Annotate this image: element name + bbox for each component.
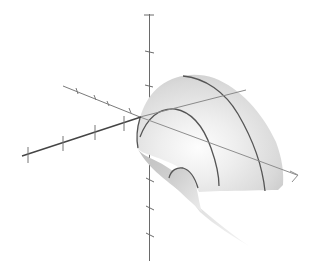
plot-canvas: [0, 0, 309, 274]
axis-back-left: [63, 86, 140, 117]
surface-dome: [137, 75, 283, 192]
axis-front-left: [22, 116, 141, 163]
surface-plot-3d: [0, 0, 309, 274]
